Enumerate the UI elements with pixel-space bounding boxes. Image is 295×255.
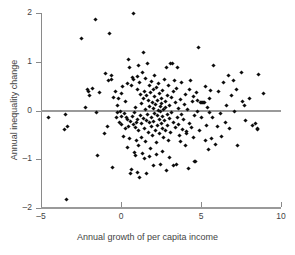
- scatter-point: [167, 139, 171, 143]
- scatter-point: [174, 162, 178, 166]
- scatter-point: [159, 162, 163, 166]
- scatter-point: [242, 103, 246, 107]
- scatter-point: [137, 129, 141, 133]
- scatter-plot-figure: –2–1012 –50510 Annual growth of per capi…: [0, 0, 295, 255]
- scatter-point: [136, 87, 140, 91]
- scatter-point: [140, 121, 144, 125]
- scatter-point: [176, 65, 180, 69]
- scatter-point: [244, 118, 248, 122]
- scatter-point: [143, 156, 147, 160]
- scatter-point: [199, 115, 203, 119]
- scatter-point: [173, 101, 177, 105]
- scatter-point: [140, 151, 144, 155]
- scatter-point: [151, 106, 155, 110]
- scatter-point: [182, 103, 186, 107]
- scatter-point: [148, 146, 152, 150]
- scatter-point: [141, 97, 145, 101]
- scatter-point: [133, 153, 137, 157]
- scatter-point: [165, 123, 169, 127]
- scatter-point: [229, 94, 233, 98]
- scatter-point: [195, 109, 199, 113]
- scatter-point: [192, 113, 196, 117]
- scatter-point: [126, 145, 130, 149]
- scatter-point: [189, 125, 193, 129]
- scatter-point: [207, 97, 211, 101]
- scatter-point: [216, 90, 220, 94]
- scatter-point: [147, 154, 151, 158]
- scatter-point: [147, 83, 151, 87]
- scatter-point: [121, 134, 125, 138]
- scatter-point: [184, 93, 188, 97]
- scatter-point: [139, 135, 143, 139]
- scatter-point: [183, 143, 187, 147]
- scatter-point: [90, 86, 94, 90]
- scatter-point: [152, 163, 156, 167]
- scatter-point: [64, 198, 68, 202]
- scatter-point: [102, 131, 106, 135]
- scatter-point: [204, 84, 208, 88]
- scatter-point: [206, 147, 210, 151]
- scatter-point: [158, 132, 162, 136]
- scatter-point: [179, 112, 183, 116]
- scatter-point: [148, 91, 152, 95]
- scatter-point: [164, 168, 168, 172]
- scatter-point: [234, 87, 238, 91]
- scatter-point: [152, 73, 156, 77]
- scatter-point: [162, 77, 166, 81]
- scatter-point: [185, 132, 189, 136]
- scatter-point: [220, 135, 224, 139]
- scatter-point: [116, 96, 120, 100]
- scatter-point: [152, 119, 156, 123]
- scatter-point: [96, 153, 100, 157]
- scatter-point: [168, 116, 172, 120]
- scatter-point: [119, 91, 123, 95]
- scatter-point: [127, 137, 131, 141]
- scatter-point: [177, 134, 181, 138]
- scatter-point: [139, 102, 143, 106]
- scatter-point: [186, 166, 190, 170]
- scatter-point: [129, 83, 133, 87]
- y-axis-label: Annual inequality change: [9, 40, 19, 180]
- scatter-point: [46, 115, 50, 119]
- scatter-point: [80, 37, 84, 41]
- scatter-point: [192, 95, 196, 99]
- scatter-point: [204, 123, 208, 127]
- scatter-point: [213, 143, 217, 147]
- scatter-point: [134, 139, 138, 143]
- scatter-point: [115, 103, 119, 107]
- scatter-point: [120, 84, 124, 88]
- scatter-point: [185, 107, 189, 111]
- scatter-point: [108, 32, 112, 36]
- scatter-point: [194, 91, 198, 95]
- scatter-point: [145, 172, 149, 176]
- scatter-point: [113, 89, 117, 93]
- scatter-point: [136, 143, 140, 147]
- scatter-point: [160, 88, 164, 92]
- scatter-point: [154, 141, 158, 145]
- scatter-point: [143, 140, 147, 144]
- scatter-point: [135, 117, 139, 121]
- scatter-point: [127, 124, 131, 128]
- scatter-point: [178, 140, 182, 144]
- scatter-point: [97, 90, 101, 94]
- scatter-point: [131, 77, 135, 81]
- scatter-point: [191, 136, 195, 140]
- scatter-point: [164, 65, 168, 69]
- scatter-point: [64, 113, 68, 117]
- scatter-point: [228, 126, 232, 130]
- scatter-point: [256, 72, 260, 76]
- plot-data-area: [0, 0, 295, 255]
- scatter-point: [135, 74, 139, 78]
- scatter-point: [197, 128, 201, 132]
- scatter-point: [208, 88, 212, 92]
- scatter-point: [154, 152, 158, 156]
- scatter-point: [187, 87, 191, 91]
- scatter-point: [137, 175, 141, 179]
- scatter-point: [223, 120, 227, 124]
- scatter-point: [110, 165, 114, 169]
- scatter-point: [170, 110, 174, 114]
- scatter-point: [226, 73, 230, 77]
- scatter-point: [163, 129, 167, 133]
- scatter-point: [166, 83, 170, 87]
- scatter-point: [178, 98, 182, 102]
